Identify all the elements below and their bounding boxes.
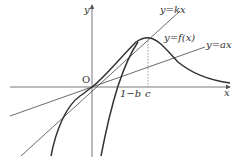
y-axis-label: y — [84, 5, 90, 15]
label-y-kx: y=kx — [160, 5, 186, 15]
tick-label-c: c — [145, 89, 151, 99]
function-graph-diagram: y x O y=kx y=f(x) y=ax 1−b c — [0, 0, 235, 163]
origin-label: O — [82, 75, 90, 85]
label-y-ax: y=ax — [206, 40, 232, 50]
line-y-kx — [21, 11, 180, 156]
graph-svg — [0, 0, 235, 163]
x-axis-label: x — [224, 88, 230, 98]
tick-label-1-minus-b: 1−b — [120, 89, 141, 99]
line-y-ax — [10, 47, 205, 116]
label-y-fx: y=f(x) — [164, 33, 195, 43]
